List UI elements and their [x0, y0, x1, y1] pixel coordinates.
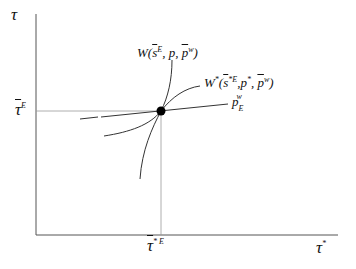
- w-star-curve-label: W*(s*E,p*, pw): [204, 75, 274, 91]
- y-axis-label: τ: [11, 5, 17, 25]
- p-e-w-dash: [80, 117, 98, 119]
- w-curve-label: W(sE, p, pw): [137, 45, 198, 61]
- p-e-w-label: pEw: [232, 94, 249, 112]
- w-curve: [140, 60, 172, 179]
- equilibrium-point: [157, 107, 166, 116]
- y-tick-label: τE: [15, 100, 26, 120]
- x-tick-label: τ* E: [147, 236, 164, 256]
- diagram-canvas: [0, 0, 356, 269]
- x-axis-label: τ*: [316, 238, 326, 258]
